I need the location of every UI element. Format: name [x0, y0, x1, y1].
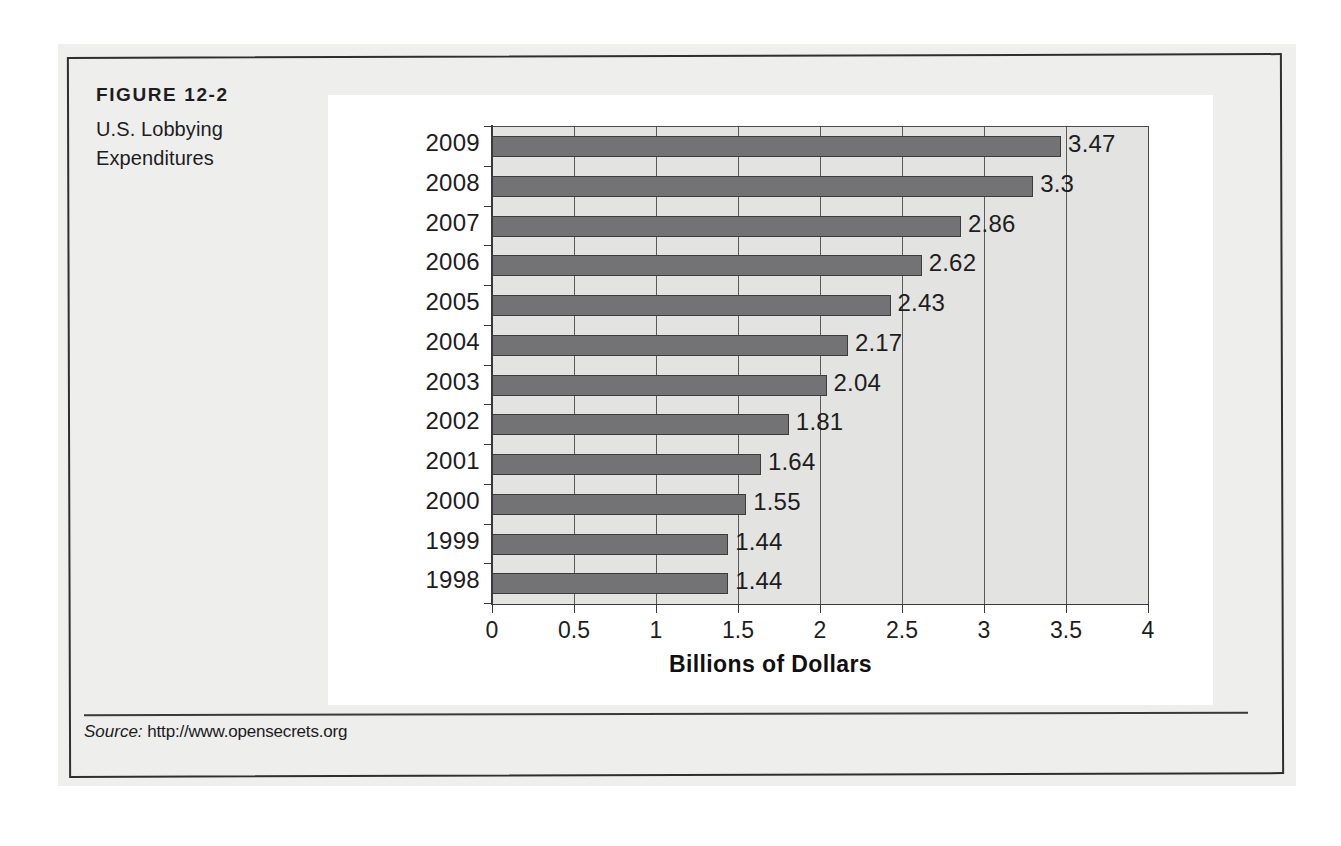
- bar: [492, 295, 891, 316]
- bar-row: [492, 564, 1148, 604]
- y-axis-tick-label: 2004: [328, 328, 480, 356]
- x-axis-title: Billions of Dollars: [328, 651, 1213, 678]
- y-axis-tick-label: 2008: [328, 169, 480, 197]
- y-axis-tick-mark: [484, 404, 492, 405]
- y-axis-tick-mark: [484, 166, 492, 167]
- y-axis-tick-mark: [484, 285, 492, 286]
- plot-area: [492, 126, 1149, 605]
- y-axis-tick-mark: [484, 444, 492, 445]
- bar-value-label: 1.44: [735, 528, 783, 556]
- figure-caption: FIGURE 12-2 U.S. Lobbying Expenditures: [96, 84, 311, 173]
- bar-row: [492, 326, 1148, 366]
- bar-value-label: 2.86: [968, 210, 1016, 238]
- y-axis-tick-mark: [484, 603, 492, 604]
- bar-value-label: 2.17: [855, 329, 903, 357]
- x-axis-tick-mark: [492, 604, 493, 613]
- y-axis-tick-label: 2001: [328, 447, 480, 475]
- chart-panel: 2009200820072006200520042003200220012000…: [328, 95, 1213, 705]
- bar-row: [492, 286, 1148, 326]
- x-axis-tick-label: 1: [616, 617, 696, 644]
- figure-number: FIGURE 12-2: [96, 84, 311, 106]
- bar-row: [492, 445, 1148, 485]
- bar: [492, 454, 761, 475]
- bar-row: [492, 485, 1148, 525]
- x-axis-tick-mark: [738, 604, 739, 613]
- source-url: http://www.opensecrets.org: [147, 722, 347, 741]
- x-axis-tick-mark: [820, 604, 821, 613]
- figure-title: U.S. Lobbying Expenditures: [96, 115, 311, 173]
- bar-value-label: 2.43: [898, 289, 946, 317]
- bar-value-label: 1.64: [768, 448, 816, 476]
- scanned-page: FIGURE 12-2 U.S. Lobbying Expenditures 2…: [0, 0, 1341, 846]
- x-axis-tick-label: 1.5: [698, 617, 778, 644]
- y-axis-tick-mark: [484, 524, 492, 525]
- y-axis-tick-label: 2009: [328, 129, 480, 157]
- figure-title-line-2: Expenditures: [96, 144, 311, 173]
- bar-value-label: 1.44: [735, 567, 783, 595]
- y-axis-tick-label: 1999: [328, 527, 480, 555]
- y-axis-tick-label: 2007: [328, 209, 480, 237]
- bar: [492, 573, 728, 594]
- bar: [492, 136, 1061, 157]
- source-label: Source:: [84, 722, 143, 741]
- y-axis-tick-mark: [484, 206, 492, 207]
- bar-value-label: 2.62: [929, 249, 977, 277]
- y-axis-tick-mark: [484, 365, 492, 366]
- bar-value-label: 1.81: [796, 408, 844, 436]
- x-axis-tick-mark: [984, 604, 985, 613]
- bar: [492, 255, 922, 276]
- bar-value-label: 2.04: [834, 369, 882, 397]
- y-axis-tick-label: 2006: [328, 248, 480, 276]
- x-axis-tick-label: 2.5: [862, 617, 942, 644]
- bar: [492, 375, 827, 396]
- y-axis-tick-mark: [484, 325, 492, 326]
- y-axis-tick-mark: [484, 484, 492, 485]
- bar-value-label: 3.3: [1040, 170, 1074, 198]
- y-axis-tick-label: 2000: [328, 487, 480, 515]
- x-axis-tick-mark: [574, 604, 575, 613]
- y-axis-tick-mark: [484, 245, 492, 246]
- bar: [492, 414, 789, 435]
- x-axis-tick-label: 2: [780, 617, 860, 644]
- bar-value-label: 3.47: [1068, 130, 1116, 158]
- x-axis-tick-label: 4: [1108, 617, 1188, 644]
- y-axis-tick-label: 2003: [328, 368, 480, 396]
- bar: [492, 216, 961, 237]
- bar-row: [492, 207, 1148, 247]
- x-axis-tick-label: 0.5: [534, 617, 614, 644]
- y-axis-tick-mark: [484, 126, 492, 127]
- x-axis-tick-mark: [1148, 604, 1149, 613]
- bar-chart: 2009200820072006200520042003200220012000…: [328, 95, 1213, 705]
- bar: [492, 494, 746, 515]
- y-axis-tick-mark: [484, 563, 492, 564]
- figure-title-line-1: U.S. Lobbying: [96, 115, 311, 144]
- bar-row: [492, 246, 1148, 286]
- x-axis-tick-label: 3: [944, 617, 1024, 644]
- y-axis-tick-label: 2005: [328, 288, 480, 316]
- x-axis-tick-mark: [1066, 604, 1067, 613]
- bar: [492, 335, 848, 356]
- bar-row: [492, 525, 1148, 565]
- x-axis-tick-mark: [656, 604, 657, 613]
- bar: [492, 176, 1033, 197]
- bar: [492, 534, 728, 555]
- x-axis-tick-mark: [902, 604, 903, 613]
- bar-value-label: 1.55: [753, 488, 801, 516]
- y-axis-tick-label: 2002: [328, 407, 480, 435]
- bar-row: [492, 366, 1148, 406]
- source-line: Source: http://www.opensecrets.org: [84, 722, 347, 742]
- bar-row: [492, 127, 1148, 167]
- x-axis-tick-label: 0: [452, 617, 532, 644]
- x-axis-tick-label: 3.5: [1026, 617, 1106, 644]
- y-axis-tick-label: 1998: [328, 566, 480, 594]
